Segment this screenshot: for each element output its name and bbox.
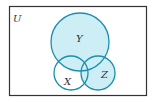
universe-label: U [13, 13, 22, 24]
venn-diagram: U Y X Z [0, 0, 152, 102]
set-z-label: Z [100, 69, 109, 80]
set-x-label: X [63, 76, 72, 87]
